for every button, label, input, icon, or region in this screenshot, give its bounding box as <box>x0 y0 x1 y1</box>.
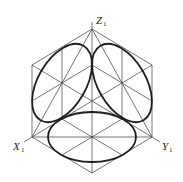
svg-text:1: 1 <box>103 20 107 28</box>
x-axis-label: X 1 <box>12 140 25 154</box>
y-axis-label: Y 1 <box>162 140 173 154</box>
svg-text:Z: Z <box>96 14 103 26</box>
svg-text:1: 1 <box>169 146 173 154</box>
y-axis-extension <box>152 137 160 142</box>
svg-text:X: X <box>12 140 21 152</box>
svg-text:1: 1 <box>21 146 25 154</box>
isometric-diagram: Z 1 X 1 Y 1 <box>0 0 183 182</box>
x-axis-extension <box>24 137 32 142</box>
z-axis-label: Z 1 <box>96 14 107 28</box>
